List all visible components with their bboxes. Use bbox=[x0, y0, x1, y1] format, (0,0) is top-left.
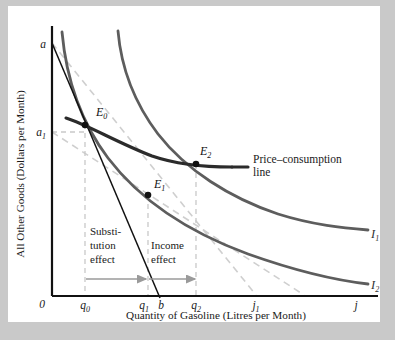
svg-text:I2: I2 bbox=[370, 278, 379, 294]
x-tick-b: b bbox=[158, 299, 164, 311]
income-effect-line1: Income bbox=[151, 239, 184, 251]
x-tick-q2-sub: 2 bbox=[197, 305, 201, 314]
substitution-effect-line3: effect bbox=[90, 253, 115, 265]
svg-text:I1: I1 bbox=[370, 227, 379, 243]
substitution-effect-line2: tution bbox=[90, 239, 116, 251]
point-label-E2: E2 bbox=[199, 144, 211, 160]
point-marker-E2[interactable] bbox=[193, 161, 200, 168]
y-tick-a: a bbox=[40, 38, 46, 50]
y-tick-a1: a1 bbox=[36, 126, 46, 141]
price-consumption-legend-line1: Price–consumption bbox=[253, 153, 342, 166]
point-label-E0-sub: 0 bbox=[103, 112, 107, 121]
curve-label-I1-sub: 1 bbox=[375, 234, 379, 243]
x-axis-title: Quantity of Gasoline (Litres per Month) bbox=[126, 309, 306, 322]
substitution-effect-line1: Substi- bbox=[90, 225, 122, 237]
svg-text:b: b bbox=[158, 299, 164, 311]
y-tick-a-base: a bbox=[40, 38, 46, 50]
point-label-E1: E1 bbox=[153, 177, 165, 193]
indifference-curve-I1 bbox=[118, 31, 368, 230]
y-tick-a1-sub: 1 bbox=[42, 132, 46, 141]
curve-label-I2: I2 bbox=[370, 278, 379, 294]
economics-diagram: All Other Goods (Dollars per Month) Quan… bbox=[8, 6, 380, 322]
point-label-E0: E0 bbox=[95, 105, 107, 121]
svg-text:a: a bbox=[40, 38, 46, 50]
x-tick-j: j bbox=[352, 299, 357, 312]
x-tick-j1-sub: 1 bbox=[256, 305, 260, 314]
svg-text:E1: E1 bbox=[153, 177, 165, 193]
svg-text:E2: E2 bbox=[199, 144, 211, 160]
point-marker-E1[interactable] bbox=[145, 192, 152, 199]
y-axis-title: All Other Goods (Dollars per Month) bbox=[14, 90, 27, 258]
svg-text:q0: q0 bbox=[80, 299, 90, 314]
x-tick-q1-sub: 1 bbox=[145, 305, 149, 314]
x-tick-q0-sub: 0 bbox=[86, 305, 90, 314]
x-tick-b-base: b bbox=[158, 299, 164, 311]
income-effect-line2: effect bbox=[151, 253, 176, 265]
x-tick-j-base: j bbox=[352, 299, 357, 312]
curve-label-I2-sub: 2 bbox=[375, 285, 379, 294]
svg-text:j: j bbox=[352, 299, 357, 312]
svg-text:a1: a1 bbox=[36, 126, 46, 141]
figure-panel: All Other Goods (Dollars per Month) Quan… bbox=[8, 6, 380, 322]
x-tick-q0: q0 bbox=[80, 299, 90, 314]
price-consumption-legend-line2: line bbox=[253, 166, 270, 178]
origin-label: 0 bbox=[39, 298, 45, 310]
svg-text:E0: E0 bbox=[95, 105, 107, 121]
point-label-E1-sub: 1 bbox=[161, 184, 165, 193]
point-label-E2-sub: 2 bbox=[207, 151, 211, 160]
point-marker-E0[interactable] bbox=[82, 122, 89, 129]
curve-label-I1: I1 bbox=[370, 227, 379, 243]
